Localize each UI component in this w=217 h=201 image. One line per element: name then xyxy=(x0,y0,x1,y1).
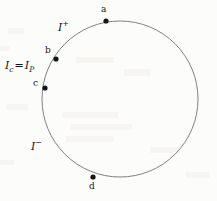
conformal-diagram-figure: a b c d I+ I− Ic=IP xyxy=(0,0,217,201)
point-marker-b xyxy=(53,56,58,61)
equation-right-subscript: P xyxy=(29,65,34,74)
point-label-a: a xyxy=(101,5,106,14)
point-marker-a xyxy=(103,18,108,23)
cauchy-horizon-equation: Ic=IP xyxy=(5,60,34,71)
point-label-b: b xyxy=(45,46,51,55)
point-label-d: d xyxy=(89,182,95,191)
equation-operator: = xyxy=(14,59,25,72)
diagram-canvas xyxy=(0,0,217,201)
scri-minus-label: I− xyxy=(31,141,42,152)
scri-minus-superscript: − xyxy=(35,138,42,147)
conformal-boundary-circle xyxy=(42,21,198,177)
point-marker-d xyxy=(90,174,95,179)
equation-left-subscript: c xyxy=(9,65,13,74)
point-marker-c xyxy=(42,85,47,90)
point-label-c: c xyxy=(33,79,38,88)
scri-plus-label: I+ xyxy=(58,22,69,33)
scri-plus-superscript: + xyxy=(62,19,69,28)
